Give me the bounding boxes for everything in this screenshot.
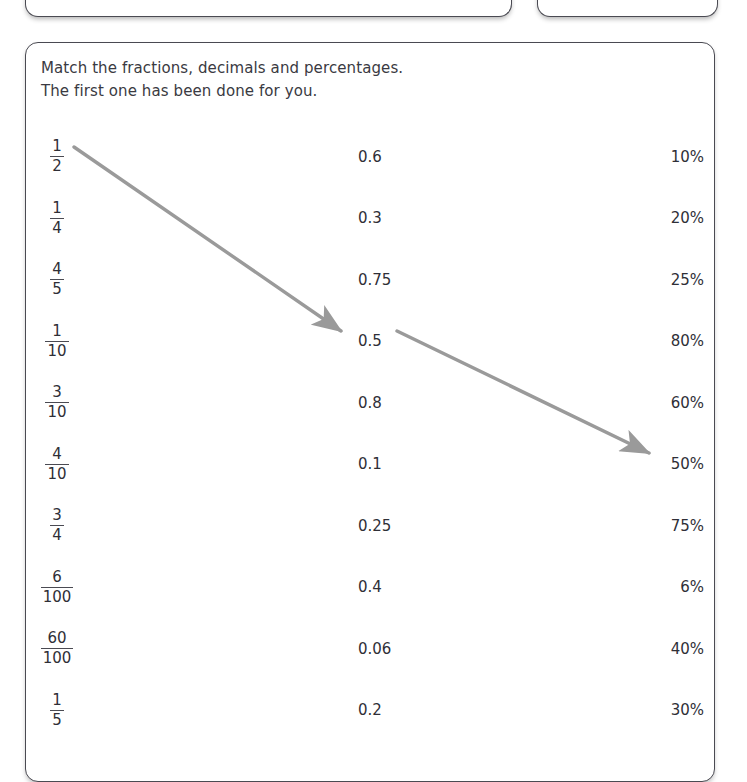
fraction-cell[interactable]: 410 (26, 434, 88, 496)
match-row: 4100.150% (26, 434, 714, 496)
fraction-denominator: 100 (41, 589, 74, 606)
percent-cell[interactable]: 80% (564, 311, 704, 373)
fraction-numerator: 60 (45, 630, 68, 647)
fraction-denominator: 4 (50, 527, 64, 544)
match-rows: 120.610%140.320%450.7525%1100.580%3100.8… (26, 126, 714, 741)
percent-cell[interactable]: 50% (564, 434, 704, 496)
match-row: 3100.860% (26, 372, 714, 434)
fraction: 410 (45, 446, 68, 483)
decimal-cell[interactable]: 0.25 (358, 495, 391, 557)
fraction-cell[interactable]: 15 (26, 680, 88, 742)
fraction: 15 (50, 692, 64, 729)
fraction: 14 (50, 200, 64, 237)
fraction: 34 (50, 507, 64, 544)
decimal-cell[interactable]: 0.6 (358, 126, 382, 188)
decimal-cell[interactable]: 0.4 (358, 557, 382, 619)
match-row: 61000.46% (26, 557, 714, 619)
fraction-cell[interactable]: 34 (26, 495, 88, 557)
fraction-cell[interactable]: 45 (26, 249, 88, 311)
match-row: 450.7525% (26, 249, 714, 311)
top-card-right (537, 0, 718, 17)
fraction-numerator: 6 (50, 569, 64, 586)
worksheet-card: Match the fractions, decimals and percen… (25, 42, 715, 782)
fraction-denominator: 10 (45, 404, 68, 421)
match-row: 1100.580% (26, 311, 714, 373)
fraction: 45 (50, 261, 64, 298)
percent-cell[interactable]: 75% (564, 495, 704, 557)
fraction: 110 (45, 323, 68, 360)
fraction-numerator: 3 (50, 384, 64, 401)
instruction-line-1: Match the fractions, decimals and percen… (41, 57, 403, 80)
decimal-cell[interactable]: 0.3 (358, 188, 382, 250)
instruction-line-2: The first one has been done for you. (41, 80, 403, 103)
fraction: 310 (45, 384, 68, 421)
fraction-numerator: 1 (50, 323, 64, 340)
top-card-left (25, 0, 512, 17)
fraction-denominator: 10 (45, 343, 68, 360)
fraction-cell[interactable]: 60100 (26, 618, 88, 680)
fraction-denominator: 4 (50, 220, 64, 237)
fraction-denominator: 10 (45, 466, 68, 483)
fraction-cell[interactable]: 6100 (26, 557, 88, 619)
decimal-cell[interactable]: 0.2 (358, 680, 382, 742)
fraction-numerator: 4 (50, 261, 64, 278)
fraction-numerator: 1 (50, 200, 64, 217)
fraction-numerator: 1 (50, 138, 64, 155)
percent-cell[interactable]: 6% (564, 557, 704, 619)
match-row: 120.610% (26, 126, 714, 188)
fraction-denominator: 5 (50, 712, 64, 729)
decimal-cell[interactable]: 0.8 (358, 372, 382, 434)
match-row: 601000.0640% (26, 618, 714, 680)
fraction-numerator: 4 (50, 446, 64, 463)
percent-cell[interactable]: 20% (564, 188, 704, 250)
percent-cell[interactable]: 60% (564, 372, 704, 434)
fraction-denominator: 5 (50, 281, 64, 298)
fraction-cell[interactable]: 310 (26, 372, 88, 434)
percent-cell[interactable]: 10% (564, 126, 704, 188)
decimal-cell[interactable]: 0.75 (358, 249, 391, 311)
match-row: 340.2575% (26, 495, 714, 557)
fraction: 12 (50, 138, 64, 175)
fraction-numerator: 1 (50, 692, 64, 709)
percent-cell[interactable]: 40% (564, 618, 704, 680)
fraction-denominator: 2 (50, 158, 64, 175)
match-row: 140.320% (26, 188, 714, 250)
fraction: 6100 (41, 569, 74, 606)
instructions: Match the fractions, decimals and percen… (41, 57, 403, 103)
decimal-cell[interactable]: 0.1 (358, 434, 382, 496)
percent-cell[interactable]: 25% (564, 249, 704, 311)
fraction-cell[interactable]: 110 (26, 311, 88, 373)
fraction-cell[interactable]: 14 (26, 188, 88, 250)
fraction-numerator: 3 (50, 507, 64, 524)
decimal-cell[interactable]: 0.5 (358, 311, 382, 373)
fraction-cell[interactable]: 12 (26, 126, 88, 188)
match-row: 150.230% (26, 680, 714, 742)
decimal-cell[interactable]: 0.06 (358, 618, 391, 680)
fraction-denominator: 100 (41, 650, 74, 667)
percent-cell[interactable]: 30% (564, 680, 704, 742)
fraction: 60100 (41, 630, 74, 667)
